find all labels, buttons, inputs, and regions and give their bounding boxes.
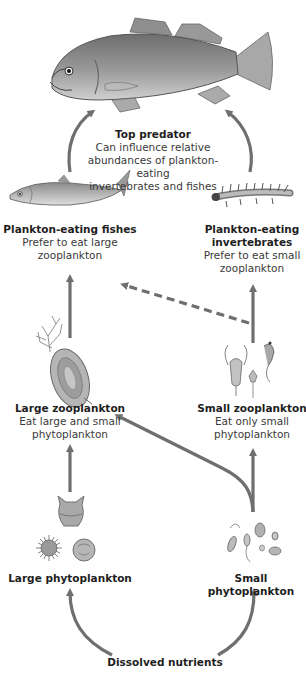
top-predator-desc-1: Can influence relative: [78, 141, 228, 154]
largemouth-bass-icon: [50, 18, 273, 112]
node-dissolved-nutrients: Dissolved nutrients: [90, 656, 240, 669]
plankton-invertebrates-title-2: invertebrates: [196, 236, 306, 249]
large-zooplankton-title: Large zooplankton: [0, 402, 140, 415]
small-phytoplankton-icon: [226, 523, 281, 562]
plankton-invertebrates-desc-2: zooplankton: [196, 262, 306, 275]
plankton-fishes-desc-1: Prefer to eat large: [0, 236, 140, 249]
node-plankton-fishes: Plankton-eating fishes Prefer to eat lar…: [0, 223, 140, 262]
large-phytoplankton-title: Large phytoplankton: [0, 572, 140, 585]
arrow-nutrients-to-smallphyto: [218, 592, 254, 655]
arrow-nutrients-to-largephyto: [70, 592, 112, 655]
node-plankton-invertebrates: Plankton-eating invertebrates Prefer to …: [196, 223, 306, 275]
small-zooplankton-title: Small zooplankton: [196, 402, 306, 415]
top-predator-desc-3: invertebrates and fishes: [78, 180, 228, 193]
node-small-phytoplankton: Small phytoplankton: [190, 572, 306, 598]
large-zooplankton-icon: [36, 316, 96, 412]
small-zooplankton-desc-2: phytoplankton: [196, 428, 306, 441]
node-top-predator: Top predator Can influence relative abun…: [78, 128, 228, 193]
dissolved-nutrients-title: Dissolved nutrients: [90, 656, 240, 669]
small-zooplankton-desc-1: Eat only small: [196, 415, 306, 428]
small-phytoplankton-title: Small phytoplankton: [190, 572, 306, 598]
large-phytoplankton-icon: [36, 496, 95, 561]
plankton-invertebrates-title-1: Plankton-eating: [196, 223, 306, 236]
node-large-zooplankton: Large zooplankton Eat large and small ph…: [0, 402, 140, 441]
small-zooplankton-icon: [225, 342, 274, 399]
large-zooplankton-desc-2: phytoplankton: [0, 428, 140, 441]
plankton-invertebrates-desc-1: Prefer to eat small: [196, 249, 306, 262]
node-small-zooplankton: Small zooplankton Eat only small phytopl…: [196, 402, 306, 441]
top-predator-title: Top predator: [78, 128, 228, 141]
plankton-fishes-title: Plankton-eating fishes: [0, 223, 140, 236]
large-zooplankton-desc-1: Eat large and small: [0, 415, 140, 428]
arrow-invertebrates-to-predator: [228, 112, 251, 172]
arrow-smallzoo-to-fishes-dashed: [124, 285, 249, 323]
top-predator-desc-2: abundances of plankton-eating: [78, 154, 228, 180]
node-large-phytoplankton: Large phytoplankton: [0, 572, 140, 585]
plankton-fishes-desc-2: zooplankton: [0, 249, 140, 262]
